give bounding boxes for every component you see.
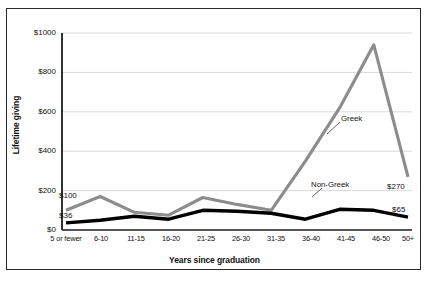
non-greek-leader-line (312, 188, 322, 197)
series-line-greek (66, 45, 408, 215)
y-axis-title: Lifetime giving (11, 73, 21, 177)
value-label-non-greek-end: $65 (392, 205, 405, 214)
x-tick-50-plus: 50+ (388, 234, 428, 243)
series-label-non-greek: Non-Greek (311, 180, 349, 189)
chart-figure: Lifetime giving Years since graduation $… (0, 0, 429, 283)
value-label-greek-end: $270 (387, 182, 405, 191)
y-tick-1000: $1000 (10, 28, 56, 37)
series-label-greek: Greek (341, 114, 362, 123)
y-tick-0: $0 (10, 225, 56, 234)
series-line-non-greek (66, 209, 408, 223)
value-label-greek-start: $100 (59, 191, 77, 200)
value-label-non-greek-start: $36 (59, 211, 72, 220)
gridlines (62, 33, 412, 191)
y-tick-600: $600 (10, 107, 56, 116)
y-tick-400: $400 (10, 146, 56, 155)
y-tick-800: $800 (10, 67, 56, 76)
x-axis-title: Years since graduation (0, 255, 429, 265)
y-tick-200: $200 (10, 186, 56, 195)
